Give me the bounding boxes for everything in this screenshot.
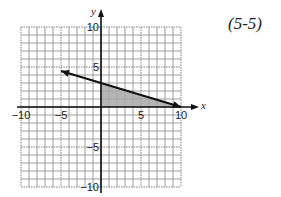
svg-text:−5: −5 (86, 141, 99, 153)
svg-text:5: 5 (93, 61, 99, 73)
svg-text:x: x (200, 99, 206, 111)
svg-text:−10: −10 (12, 109, 31, 121)
coordinate-plane: xy −10−5510105−5−10 (0, 0, 281, 197)
svg-text:−10: −10 (80, 181, 99, 193)
svg-text:10: 10 (87, 21, 99, 33)
svg-text:5: 5 (138, 109, 144, 121)
svg-text:−5: −5 (55, 109, 68, 121)
svg-text:10: 10 (175, 109, 187, 121)
svg-text:y: y (90, 5, 96, 17)
